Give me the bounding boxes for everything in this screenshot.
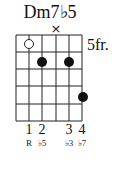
chord-grid	[0, 0, 116, 170]
interval-label: ♭7	[78, 139, 87, 148]
base-fret-label: 5fr.	[87, 37, 109, 53]
finger-number: 3	[66, 123, 73, 137]
root-open-circle-icon	[25, 40, 34, 49]
finger-dot-icon	[78, 92, 88, 102]
interval-label: ♭3	[65, 139, 74, 148]
finger-number: 4	[79, 123, 86, 137]
finger-dot-icon	[64, 57, 74, 67]
finger-dot-icon	[37, 57, 47, 67]
interval-label: ♭5	[38, 139, 47, 148]
finger-number: 2	[39, 123, 46, 137]
finger-number: 1	[26, 123, 33, 137]
interval-label: R	[26, 139, 32, 148]
